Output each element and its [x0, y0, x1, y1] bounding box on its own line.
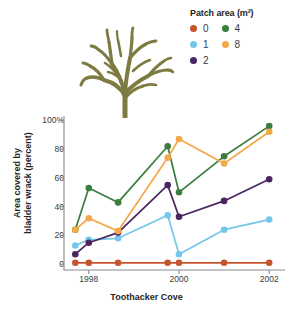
data-point-1[interactable] — [164, 212, 171, 219]
legend-label: 1 — [203, 40, 209, 50]
legend-item-4[interactable]: 4 — [222, 23, 241, 34]
chart-legend: Patch area (m²) 0 1 2 4 — [190, 8, 290, 66]
data-point-1[interactable] — [115, 235, 122, 242]
legend-item-8[interactable]: 8 — [222, 39, 241, 50]
data-point-4[interactable] — [221, 153, 228, 160]
legend-swatch-icon — [190, 41, 197, 48]
data-point-4[interactable] — [115, 199, 122, 206]
data-point-4[interactable] — [176, 189, 183, 196]
data-point-0[interactable] — [86, 260, 93, 267]
legend-swatch-icon — [190, 25, 197, 32]
data-point-8[interactable] — [266, 129, 273, 136]
data-point-0[interactable] — [266, 260, 273, 267]
data-point-1[interactable] — [221, 226, 228, 233]
data-point-2[interactable] — [266, 176, 273, 183]
data-point-8[interactable] — [86, 215, 93, 222]
data-point-4[interactable] — [266, 123, 273, 130]
legend-swatch-icon — [222, 41, 229, 48]
data-point-8[interactable] — [176, 136, 183, 143]
data-point-0[interactable] — [115, 260, 122, 267]
legend-column-left: 0 1 2 — [190, 23, 209, 66]
x-axis-label: Toothacker Cove — [0, 292, 293, 302]
data-point-4[interactable] — [164, 143, 171, 150]
data-point-0[interactable] — [221, 260, 228, 267]
legend-label: 0 — [203, 24, 209, 34]
data-point-2[interactable] — [72, 251, 79, 258]
data-point-8[interactable] — [221, 160, 228, 167]
data-point-2[interactable] — [164, 182, 171, 189]
legend-swatch-icon — [222, 25, 229, 32]
legend-item-1[interactable]: 1 — [190, 39, 209, 50]
data-point-8[interactable] — [72, 226, 79, 233]
legend-column-right: 4 8 — [222, 23, 241, 66]
data-point-8[interactable] — [115, 228, 122, 235]
data-point-0[interactable] — [164, 260, 171, 267]
series-line-1 — [75, 215, 269, 254]
legend-item-0[interactable]: 0 — [190, 23, 209, 34]
data-point-0[interactable] — [176, 260, 183, 267]
legend-label: 4 — [235, 24, 241, 34]
legend-label: 8 — [235, 40, 241, 50]
chart-canvas — [0, 110, 293, 285]
data-point-1[interactable] — [72, 242, 79, 249]
legend-item-2[interactable]: 2 — [190, 55, 209, 66]
series-line-2 — [75, 179, 269, 254]
legend-swatch-icon — [190, 57, 197, 64]
data-point-0[interactable] — [72, 260, 79, 267]
series-line-4 — [75, 126, 269, 230]
seaweed-icon — [78, 26, 174, 118]
data-point-1[interactable] — [266, 216, 273, 223]
legend-label: 2 — [203, 56, 209, 66]
data-point-2[interactable] — [176, 213, 183, 220]
bladder-wrack-illustration — [78, 26, 174, 118]
plot-area: Area covered by bladder wrack (percent) … — [0, 110, 293, 314]
chart-figure: Patch area (m²) 0 1 2 4 — [0, 0, 293, 314]
series-line-8 — [75, 132, 269, 231]
legend-title: Patch area (m²) — [190, 8, 290, 18]
data-point-1[interactable] — [176, 251, 183, 258]
data-point-4[interactable] — [86, 185, 93, 192]
data-point-2[interactable] — [86, 239, 93, 246]
data-point-8[interactable] — [164, 154, 171, 161]
data-point-2[interactable] — [221, 198, 228, 205]
